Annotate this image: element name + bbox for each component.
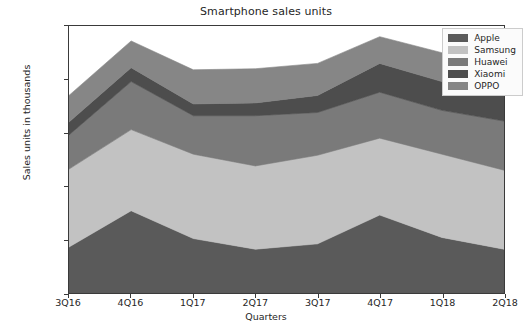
legend-label: Huawei xyxy=(474,57,507,67)
chart-legend: AppleSamsungHuaweiXiaomiOPPO xyxy=(442,28,523,96)
legend-item-samsung[interactable]: Samsung xyxy=(448,45,516,55)
stacked-area-plot xyxy=(69,26,504,293)
x-tick-label-1q17: 1Q17 xyxy=(163,297,223,308)
legend-label: Samsung xyxy=(474,45,516,55)
x-tick-mark xyxy=(380,294,381,298)
x-tick-label-4q16: 4Q16 xyxy=(100,297,160,308)
legend-swatch-icon xyxy=(448,46,468,54)
chart-title: Smartphone sales units xyxy=(0,5,532,18)
x-tick-mark xyxy=(68,294,69,298)
x-tick-mark xyxy=(505,294,506,298)
x-tick-label-3q16: 3Q16 xyxy=(38,297,98,308)
x-tick-label-1q18: 1Q18 xyxy=(413,297,473,308)
plot-area xyxy=(68,25,505,294)
chart-figure: Smartphone sales units Sales units in th… xyxy=(0,0,532,331)
x-tick-mark xyxy=(318,294,319,298)
legend-label: OPPO xyxy=(474,81,499,91)
legend-swatch-icon xyxy=(448,82,468,90)
x-tick-mark xyxy=(443,294,444,298)
x-axis-label: Quarters xyxy=(0,311,532,322)
legend-item-xiaomi[interactable]: Xiaomi xyxy=(448,69,516,79)
x-tick-label-4q17: 4Q17 xyxy=(350,297,410,308)
x-tick-mark xyxy=(130,294,131,298)
legend-item-huawei[interactable]: Huawei xyxy=(448,57,516,67)
y-axis-label: Sales units in thousands xyxy=(21,0,32,248)
legend-swatch-icon xyxy=(448,34,468,42)
x-tick-label-2q18: 2Q18 xyxy=(475,297,532,308)
legend-label: Apple xyxy=(474,33,500,43)
x-tick-label-3q17: 3Q17 xyxy=(288,297,348,308)
legend-swatch-icon xyxy=(448,58,468,66)
x-tick-mark xyxy=(193,294,194,298)
x-tick-label-2q17: 2Q17 xyxy=(225,297,285,308)
x-tick-mark xyxy=(255,294,256,298)
legend-swatch-icon xyxy=(448,70,468,78)
legend-item-oppo[interactable]: OPPO xyxy=(448,81,516,91)
legend-item-apple[interactable]: Apple xyxy=(448,33,516,43)
legend-label: Xiaomi xyxy=(474,69,505,79)
